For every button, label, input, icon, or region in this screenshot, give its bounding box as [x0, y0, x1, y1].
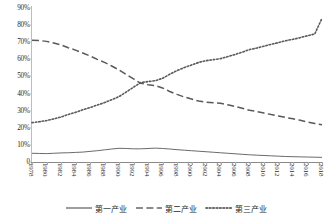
- series-line-1: [32, 148, 322, 157]
- x-tick-label: 2018: [317, 163, 325, 176]
- legend-swatch-dotted-icon: [206, 204, 232, 212]
- x-tick-label: 2010: [259, 163, 267, 176]
- x-tick-label: 2016: [302, 163, 310, 176]
- legend-swatch-solid-icon: [66, 204, 92, 212]
- plot-area: [32, 8, 322, 162]
- x-tick-mark: [192, 162, 193, 165]
- x-axis-labels: 1978198019821984198619881990199219941996…: [0, 163, 333, 195]
- x-tick-mark: [119, 162, 120, 165]
- y-axis-labels: 010%20%30%40%50%60%70%80%90%: [0, 0, 30, 170]
- x-tick-label: 1980: [41, 163, 49, 176]
- x-tick-mark: [76, 162, 77, 165]
- y-tick-mark: [28, 59, 31, 60]
- x-tick-mark: [235, 162, 236, 165]
- x-tick-mark: [163, 162, 164, 165]
- x-tick-mark: [206, 162, 207, 165]
- x-tick-mark: [105, 162, 106, 165]
- y-tick-mark: [28, 25, 31, 26]
- series-canvas: [32, 8, 322, 162]
- x-tick-label: 1978: [27, 163, 35, 176]
- x-tick-mark: [61, 162, 62, 165]
- x-tick-mark: [177, 162, 178, 165]
- x-tick-label: 2012: [273, 163, 281, 176]
- x-tick-label: 1992: [128, 163, 136, 176]
- x-tick-mark: [293, 162, 294, 165]
- x-tick-label: 1982: [56, 163, 64, 176]
- legend-label: 第三产业: [235, 203, 267, 214]
- x-tick-mark: [148, 162, 149, 165]
- y-tick-mark: [28, 93, 31, 94]
- line-chart: 010%20%30%40%50%60%70%80%90% 19781980198…: [0, 0, 333, 220]
- chart-legend: 第一产业第二产业第三产业: [0, 199, 333, 217]
- x-tick-mark: [134, 162, 135, 165]
- x-tick-mark: [264, 162, 265, 165]
- x-tick-label: 1994: [143, 163, 151, 176]
- x-tick-label: 1986: [85, 163, 93, 176]
- legend-label: 第二产业: [165, 203, 197, 214]
- legend-item-3[interactable]: 第三产业: [206, 203, 267, 214]
- x-tick-label: 2002: [201, 163, 209, 176]
- x-tick-mark: [308, 162, 309, 165]
- x-tick-label: 2000: [186, 163, 194, 176]
- x-tick-label: 1990: [114, 163, 122, 176]
- y-tick-mark: [28, 144, 31, 145]
- y-tick-mark: [28, 127, 31, 128]
- x-tick-mark: [90, 162, 91, 165]
- x-tick-label: 2006: [230, 163, 238, 176]
- x-tick-label: 2014: [288, 163, 296, 176]
- x-tick-label: 2004: [215, 163, 223, 176]
- legend-label: 第一产业: [95, 203, 127, 214]
- legend-item-2[interactable]: 第二产业: [136, 203, 197, 214]
- y-tick-mark: [28, 110, 31, 111]
- x-tick-mark: [322, 162, 323, 165]
- x-tick-label: 2008: [244, 163, 252, 176]
- x-tick-mark: [250, 162, 251, 165]
- x-tick-mark: [221, 162, 222, 165]
- series-line-3: [32, 18, 322, 122]
- x-tick-mark: [47, 162, 48, 165]
- y-tick-mark: [28, 42, 31, 43]
- legend-swatch-dashed-icon: [136, 204, 162, 212]
- x-tick-label: 1998: [172, 163, 180, 176]
- x-tick-label: 1984: [70, 163, 78, 176]
- x-tick-label: 1996: [157, 163, 165, 176]
- x-tick-mark: [279, 162, 280, 165]
- y-tick-mark: [28, 76, 31, 77]
- y-tick-mark: [28, 8, 31, 9]
- legend-item-1[interactable]: 第一产业: [66, 203, 127, 214]
- x-tick-mark: [32, 162, 33, 165]
- y-tick-mark: [28, 162, 31, 163]
- x-tick-label: 1988: [99, 163, 107, 176]
